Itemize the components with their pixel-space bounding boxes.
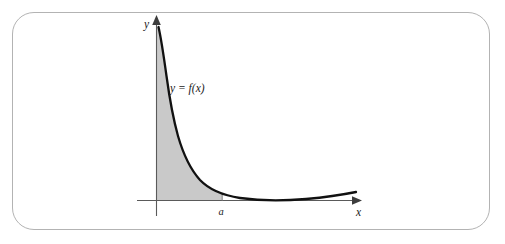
shaded-region xyxy=(157,27,223,200)
tick-label-a: a xyxy=(219,206,224,217)
x-axis-label: x xyxy=(355,206,362,218)
y-axis-label: y xyxy=(143,18,150,31)
x-axis-arrowhead xyxy=(352,196,362,205)
figure-root: y x y = f(x) a xyxy=(0,0,505,244)
y-axis-arrowhead xyxy=(152,15,161,25)
curve-label: y = f(x) xyxy=(169,82,205,95)
plot-canvas: y x y = f(x) a xyxy=(0,0,505,244)
